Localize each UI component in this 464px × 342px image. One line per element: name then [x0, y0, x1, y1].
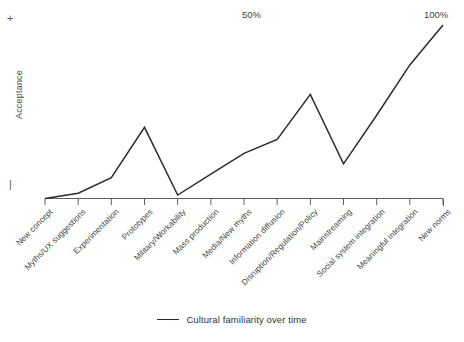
legend-line-swatch: [157, 319, 179, 320]
chart-legend: Cultural familiarity over time: [0, 314, 464, 325]
series-line-cultural-familiarity: [45, 25, 443, 199]
plot-area: [0, 0, 464, 342]
chart-container: + Acceptance | 50% 100% New conceptMyths…: [0, 0, 464, 342]
x-axis: [45, 199, 444, 207]
x-axis-ticks: [45, 199, 443, 206]
legend-item-label: Cultural familiarity over time: [186, 314, 306, 325]
